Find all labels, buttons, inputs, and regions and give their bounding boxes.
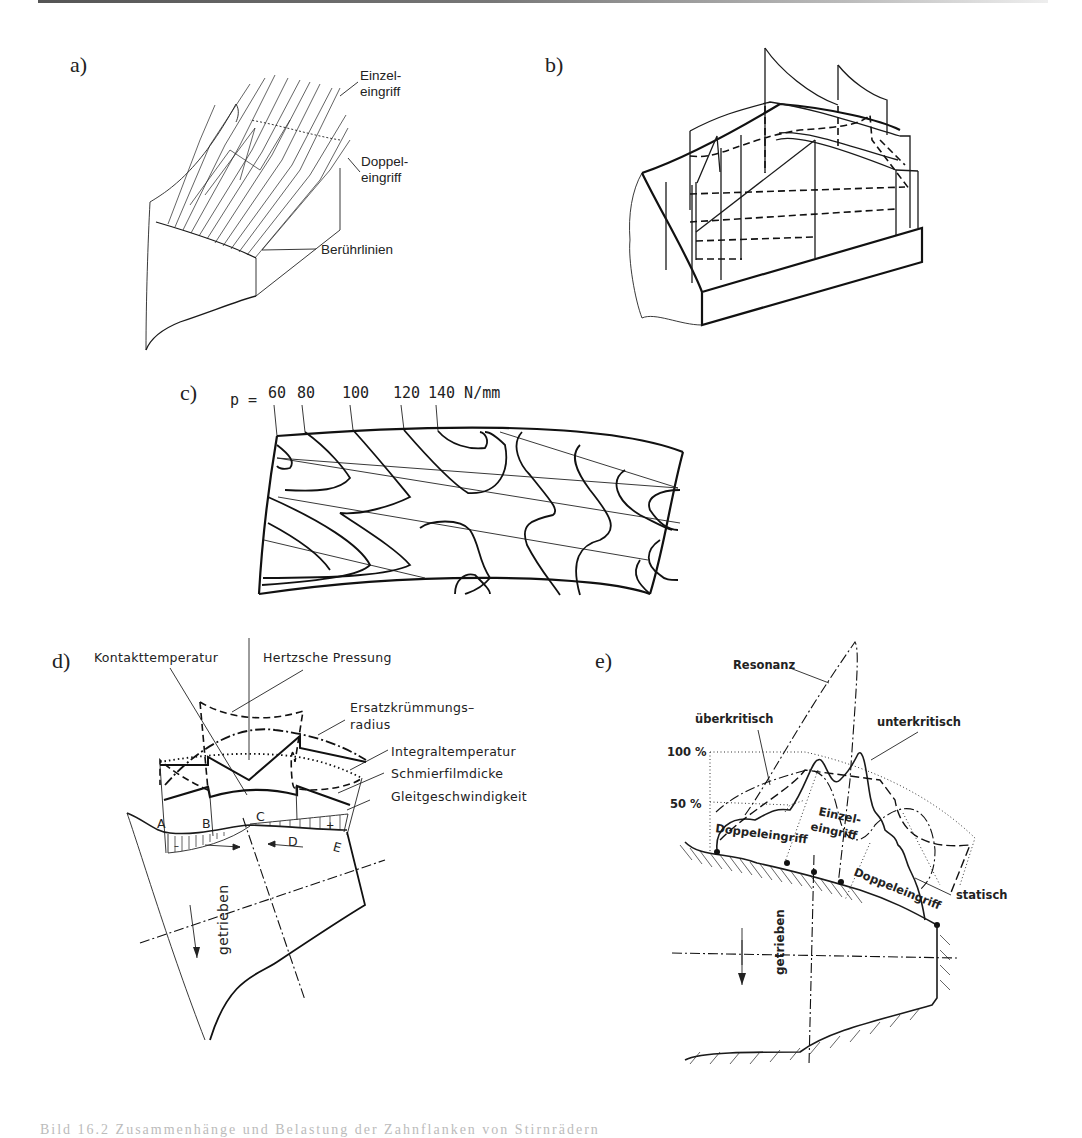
label-getrieben-e: getrieben — [773, 909, 787, 975]
label-doppeleingriff-left: Doppeleingriff — [715, 821, 809, 846]
label-kontakttemperatur: Kontakttemperatur — [94, 650, 219, 665]
label-getrieben-d: getrieben — [215, 885, 231, 955]
pressure-80: 80 — [297, 384, 315, 402]
point-a: A — [157, 816, 166, 831]
sign-plus: + — [326, 820, 335, 831]
point-e: E — [331, 839, 343, 856]
panel-d: d) Kontakttemperatur Hertzsche Pressung … — [52, 638, 527, 1040]
label-resonanz: Resonanz — [733, 658, 796, 672]
label-unterkritisch: unterkritisch — [877, 715, 961, 729]
label-gleitgeschwindigkeit: Gleitgeschwindigkeit — [391, 789, 527, 804]
label-ersatzkruemmungsradius-1: Ersatzkrümmungs– — [350, 700, 475, 715]
label-einzeleingriff-1: Einzel- — [360, 68, 401, 83]
label-beruehrlinien: Berührlinien — [321, 242, 393, 257]
label-einzeleingriff-2: eingriff — [360, 84, 401, 99]
label-50-percent: 50 % — [670, 797, 702, 811]
panel-c-label: c) — [180, 380, 197, 405]
panel-e: e) Resonanz überkritisch unterkritisch 1… — [595, 642, 1007, 1065]
point-c: C — [256, 809, 265, 824]
label-integraltemperatur: Integraltemperatur — [391, 744, 517, 759]
panel-a-label: a) — [70, 52, 87, 77]
figure-caption: Bild 16.2 Zusammenhänge und Belastung de… — [40, 1122, 600, 1138]
panel-c: c) p = 60 80 100 120 140 N/mm — [180, 380, 683, 595]
pressure-120: 120 — [393, 384, 420, 402]
panel-e-label: e) — [595, 648, 612, 673]
panel-b-label: b) — [545, 52, 563, 77]
pressure-60: 60 — [268, 384, 286, 402]
pressure-prefix: p = — [230, 391, 257, 409]
label-ueberkritisch: überkritisch — [695, 712, 773, 726]
label-doppeleingriff-1: Doppel- — [361, 154, 408, 169]
label-100-percent: 100 % — [667, 745, 707, 759]
pressure-140-unit: 140 N/mm — [428, 384, 500, 402]
label-doppeleingriff-2: eingriff — [361, 170, 402, 185]
panel-a: a) Einzel- eingri — [70, 52, 408, 350]
sign-minus: – — [174, 840, 179, 851]
label-statisch: statisch — [956, 888, 1007, 902]
pressure-100: 100 — [342, 384, 369, 402]
point-b: B — [202, 816, 211, 831]
label-schmierfilmdicke: Schmierfilmdicke — [391, 766, 503, 781]
panel-d-label: d) — [52, 648, 70, 673]
panel-b: b) — [545, 48, 922, 325]
label-hertzsche-pressung: Hertzsche Pressung — [263, 650, 392, 665]
label-ersatzkruemmungsradius-2: radius — [350, 717, 390, 732]
